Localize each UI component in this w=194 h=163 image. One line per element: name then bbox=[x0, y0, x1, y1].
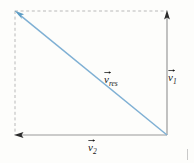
vector-arrow-accent-icon bbox=[168, 68, 175, 72]
vector-v2-label: v 2 bbox=[88, 142, 97, 153]
vector-vres-shaft bbox=[19, 14, 168, 135]
vector-diagram-canvas bbox=[0, 0, 194, 163]
vector-v1-label: v 1 bbox=[168, 72, 177, 83]
vector-arrow-accent-icon bbox=[88, 138, 95, 142]
vector-vres-subscript: res bbox=[109, 79, 118, 88]
page-edge-mark bbox=[187, 149, 188, 160]
vector-v1-subscript: 1 bbox=[173, 77, 177, 86]
vector-diagram-figure: v res v 1 v 2 bbox=[0, 0, 194, 163]
vector-arrow-accent-icon bbox=[104, 70, 111, 74]
vector-v2-subscript: 2 bbox=[93, 147, 97, 156]
vector-vres-label: v res bbox=[104, 74, 118, 85]
